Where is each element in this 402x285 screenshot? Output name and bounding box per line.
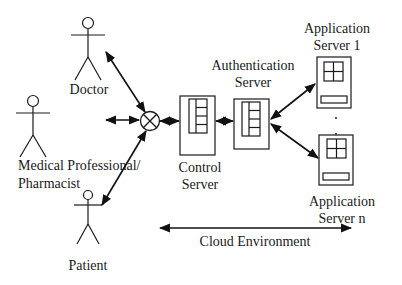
auth-app1-arrow: [271, 84, 315, 119]
architecture-diagram: Doctor Medical Professional/ Pharmacist …: [0, 0, 402, 285]
authentication-server-label-line1: Authentication: [211, 58, 294, 73]
control-server-icon: [180, 96, 215, 155]
patient-label: Patient: [69, 258, 108, 273]
authentication-server-label-line2: Server: [235, 75, 272, 90]
doctor-actor-icon: [71, 18, 105, 81]
auth-appn-arrow: [271, 124, 318, 158]
circle-x-junction-icon: [141, 112, 160, 131]
medical-professional-actor-icon: [16, 96, 50, 158]
doctor-label: Doctor: [70, 82, 109, 97]
application-server-1-icon: [317, 57, 351, 108]
control-server-label-line2: Server: [182, 177, 219, 192]
patient-actor-icon: [74, 191, 102, 245]
application-server-1-label-line2: Server 1: [313, 38, 360, 53]
application-server-n-icon: [319, 135, 353, 185]
doctor-junction-arrow: [106, 52, 145, 112]
ellipsis-dot: [335, 117, 337, 119]
application-server-n-label-line1: Application: [309, 194, 375, 209]
application-server-1-label-line1: Application: [304, 21, 370, 36]
medical-professional-label-line2: Pharmacist: [18, 176, 80, 191]
authentication-server-icon: [234, 99, 269, 149]
application-server-n-label-line2: Server n: [318, 211, 365, 226]
control-server-label-line1: Control: [179, 160, 222, 175]
cloud-environment-label: Cloud Environment: [200, 234, 311, 249]
